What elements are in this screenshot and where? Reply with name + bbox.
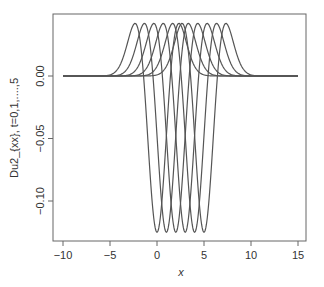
y-tick-label: −0.05 <box>34 125 46 153</box>
y-axis-title: Du2_{xx}, t=0,1,....,5 <box>8 78 20 178</box>
x-tick-label: 15 <box>292 249 304 261</box>
x-axis: −10−5051015 <box>54 241 304 261</box>
x-axis-title: x <box>177 266 184 278</box>
x-tick-label: 5 <box>201 249 207 261</box>
x-tick-label: −10 <box>54 249 73 261</box>
x-tick-label: 10 <box>245 249 257 261</box>
curves <box>63 23 298 232</box>
chart: −10−5051015 0.00−0.05−0.10 x Du2_{xx}, t… <box>0 0 324 287</box>
curve-t3 <box>63 23 298 232</box>
y-tick-label: 0.00 <box>34 65 46 86</box>
y-axis: 0.00−0.05−0.10 <box>34 65 53 215</box>
y-tick-label: −0.10 <box>34 187 46 215</box>
x-tick-label: −5 <box>104 249 117 261</box>
x-tick-label: 0 <box>154 249 160 261</box>
plot-frame <box>53 14 306 241</box>
